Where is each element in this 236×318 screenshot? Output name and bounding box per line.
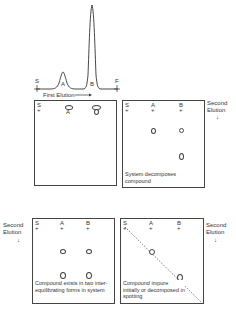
start-label: S [35, 78, 39, 85]
peak-b-label: B [90, 81, 94, 88]
origin-mark: + [125, 107, 129, 114]
lane-b-mark: + [177, 225, 181, 232]
origin-mark: + [35, 225, 39, 232]
origin-mark: + [123, 225, 127, 232]
origin-mark: + [37, 107, 41, 114]
spot-a-upper [60, 249, 66, 254]
lane-b-mark: + [86, 225, 90, 232]
second-elution-label: Second Elution [207, 100, 235, 114]
second-elution-arrow: ↓ [17, 237, 20, 244]
panel-top-left: S + A [34, 100, 117, 186]
spot-a-lower [60, 272, 66, 279]
spot-b-lower [86, 272, 92, 279]
second-elution-arrow: ↓ [216, 114, 219, 121]
spot-a [149, 249, 155, 255]
panel-caption: System decomposes compound [125, 171, 183, 184]
finish-label: F [115, 78, 119, 85]
second-elution-label: Second Elution [206, 222, 234, 236]
lane-a-mark: + [149, 225, 153, 232]
spot-a [151, 128, 156, 134]
spot-b [179, 128, 184, 133]
second-elution-arrow: ↓ [214, 237, 217, 244]
second-elution-label: Second Elution [3, 222, 31, 236]
spot-a-label: A [66, 109, 70, 116]
peak-a-label: A [61, 81, 65, 88]
spot-b-upper [86, 249, 92, 254]
panel-top-right: S + A + B + System decomposes compound [122, 100, 205, 188]
lane-b-mark: + [179, 107, 183, 114]
panel-bottom-left: S + A + B + Compound exists in two inter… [32, 218, 115, 304]
spot-b-tail [94, 109, 99, 115]
panel-caption: Compound impure initially or decomposed … [123, 280, 185, 300]
lane-a-mark: + [151, 107, 155, 114]
spot-b-decomposed [179, 153, 184, 160]
panel-bottom-right: S + A + B + Compound impure initially or… [120, 218, 204, 304]
panel-caption: Compound exists in two inter-equilibrati… [35, 280, 115, 293]
lane-a-mark: + [60, 225, 64, 232]
first-elution-label: First Elution [43, 92, 75, 99]
